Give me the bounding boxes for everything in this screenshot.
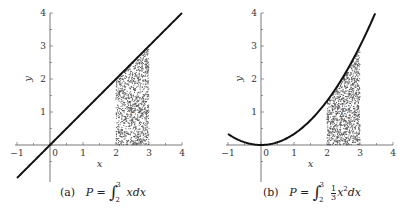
x-tick-label: 1 [291,148,297,158]
lower-limit: 2 [116,196,120,204]
random-points [327,50,361,146]
x-axis-label: x [97,158,103,169]
x-tick-label: 0 [263,148,269,158]
x-tick-label: 3 [357,148,363,158]
y-tick-label: 1 [251,107,257,117]
y-tick-label: 4 [251,8,257,18]
lower-limit: 2 [319,196,323,204]
y-tick-label: 2 [40,74,46,84]
x-tick-label: 4 [179,148,185,158]
caption-tag: (a) [60,186,75,199]
caption-lhs: P = [289,186,309,199]
x-tick-label: 1 [80,148,86,158]
y-tick-label: 4 [40,8,46,18]
chart-panel-a: P−1012341234xy [10,8,185,182]
y-tick-label: 2 [251,74,257,84]
fraction: 13 [331,185,336,202]
upper-limit: 3 [320,181,324,189]
caption-lhs: P = [86,186,106,199]
caption-b: (b) P = ∫32 13x2dx [263,180,361,202]
caption-a: (a) P = ∫32 xdx [60,180,146,200]
region-label: P [129,107,137,117]
function-curve [17,13,182,178]
integrand: xdx [127,186,146,199]
x-tick-label: 0 [52,148,58,158]
x-tick-label: 3 [146,148,152,158]
region-label: P [340,107,348,117]
exponent: 2 [343,185,347,193]
x-tick-label: 2 [113,148,119,158]
y-axis-label: y [233,76,244,83]
y-tick-label: 3 [40,41,46,51]
y-axis-label: y [22,76,33,83]
x-axis-label: x [308,158,314,169]
caption-tag: (b) [263,186,279,199]
upper-limit: 3 [116,181,120,189]
x-tick-label: −1 [10,148,23,158]
differential: dx [348,186,361,199]
x-tick-label: −1 [221,148,234,158]
x-tick-label: 2 [324,148,330,158]
x-tick-label: 4 [390,148,396,158]
y-tick-label: 1 [40,107,46,117]
y-tick-label: 3 [251,41,257,51]
chart-panel-b: P−1012341234xy [221,8,396,182]
